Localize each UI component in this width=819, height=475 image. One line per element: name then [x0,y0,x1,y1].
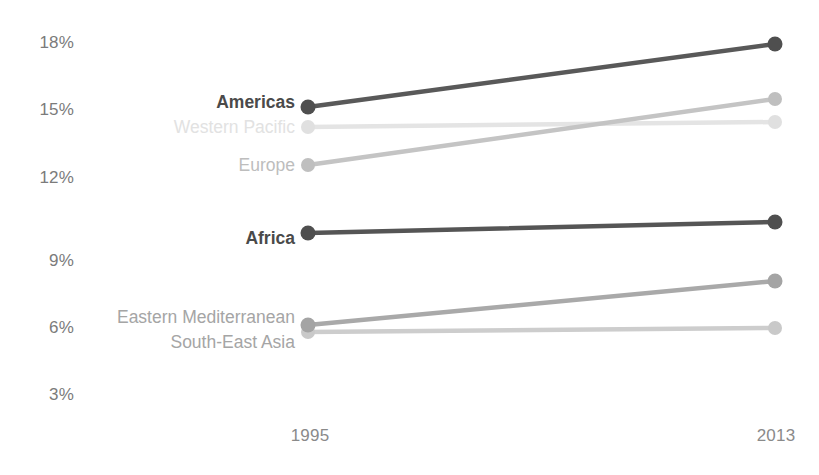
series-label-western-pacific: Western Pacific [0,118,295,138]
series-label-europe: Europe [0,156,295,176]
series-label-group: Americas Western Pacific Europe Africa E… [0,0,819,475]
series-label-africa: Africa [0,229,295,249]
series-label-south-east-asia: South-East Asia [0,333,295,353]
series-label-americas: Americas [0,93,295,113]
slope-chart: 18% 15% 12% 9% 6% 3% Americas Western Pa… [0,0,819,475]
series-label-eastern-mediterranean: Eastern Mediterranean [0,308,295,328]
